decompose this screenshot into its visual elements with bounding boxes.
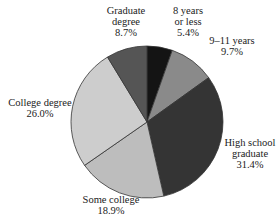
slice-value-label: 8.7% <box>115 27 137 38</box>
slice-label: High schoolgraduate31.4% <box>224 137 275 170</box>
slice-name-label: Some college <box>83 194 140 205</box>
slice-value-label: 26.0% <box>26 108 53 119</box>
slice-label: Graduatedegree8.7% <box>107 5 146 38</box>
slice-value-label: 31.4% <box>236 159 263 170</box>
pie-chart: 8 yearsor less5.4%9–11 years9.7%High sch… <box>0 0 277 224</box>
slice-name-label: High school <box>224 137 275 148</box>
slice-name-label: 8 years <box>173 5 203 16</box>
slice-label: 9–11 years9.7% <box>209 35 254 57</box>
slice-name-label: 9–11 years <box>209 35 254 46</box>
slice-label: Some college18.9% <box>83 194 140 216</box>
slice-value-label: 9.7% <box>221 46 243 57</box>
slice-label: 8 yearsor less5.4% <box>173 5 203 38</box>
slice-label: College degree26.0% <box>8 97 72 119</box>
slice-name-label: College degree <box>8 97 72 108</box>
slice-value-label: 5.4% <box>177 27 199 38</box>
slice-value-label: 18.9% <box>97 205 124 216</box>
pie-slices <box>71 46 223 198</box>
slice-name-label: or less <box>174 16 201 27</box>
slice-name-label: Graduate <box>107 5 146 16</box>
slice-name-label: degree <box>112 16 140 27</box>
slice-name-label: graduate <box>232 148 268 159</box>
